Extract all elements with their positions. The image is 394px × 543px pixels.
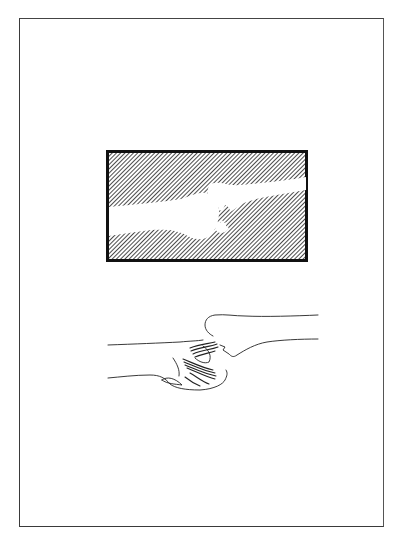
xray-illustration — [106, 150, 308, 262]
skin-creases — [183, 342, 218, 386]
clinical-illustration — [105, 298, 320, 393]
page-frame — [19, 18, 384, 527]
